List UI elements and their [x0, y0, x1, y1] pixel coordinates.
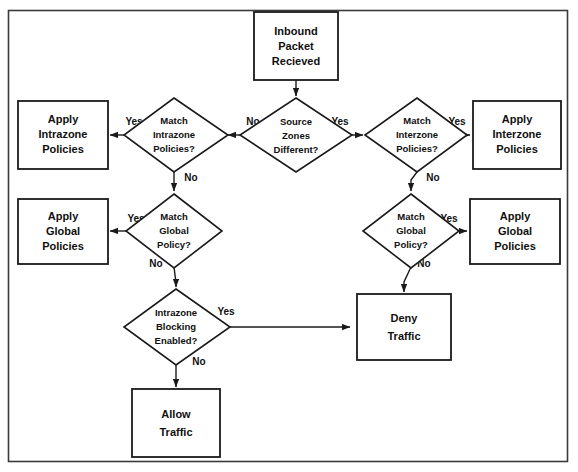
node-apply-global-policies-right[interactable]: Apply Global Policies	[470, 199, 560, 264]
node-source-zones-line3: Different?	[274, 144, 319, 155]
edge-label-intrazone-no: No	[184, 172, 197, 183]
node-apply-global-left-line2: Global	[46, 225, 80, 237]
node-global-right-line1: Match	[397, 211, 425, 222]
node-match-interzone-line3: Policies?	[396, 143, 438, 154]
edge-label-blocking-yes: Yes	[217, 306, 235, 317]
node-match-intrazone-line3: Policies?	[153, 143, 195, 154]
node-blocking-line1: Intrazone	[155, 307, 197, 318]
edge-label-blocking-no: No	[192, 356, 205, 367]
node-allow-traffic-line2: Traffic	[159, 426, 192, 438]
flowchart-svg: No Yes Yes No Yes No Yes No Yes No Yes N…	[0, 0, 578, 472]
node-match-interzone-line1: Match	[403, 115, 431, 126]
node-allow-traffic[interactable]: Allow Traffic	[132, 389, 220, 457]
edge-global-right-no	[404, 267, 411, 292]
node-match-interzone-line2: Interzone	[396, 129, 438, 140]
node-intrazone-blocking-enabled[interactable]: Intrazone Blocking Enabled?	[124, 289, 230, 365]
node-apply-intrazone-line3: Policies	[42, 143, 84, 155]
node-apply-intrazone-policies[interactable]: Apply Intrazone Policies	[18, 101, 108, 169]
node-blocking-line2: Blocking	[156, 321, 196, 332]
node-apply-intrazone-line2: Intrazone	[39, 128, 88, 140]
node-global-right-line2: Global	[396, 225, 426, 236]
node-source-zones-line2: Zones	[282, 130, 310, 141]
node-inbound-packet-line1: Inbound	[274, 25, 317, 37]
edge-label-interzone-no: No	[426, 172, 439, 183]
edge-global-left-no	[174, 267, 176, 287]
flowchart-canvas: No Yes Yes No Yes No Yes No Yes No Yes N…	[0, 0, 578, 472]
node-global-left-line3: Policy?	[157, 239, 191, 250]
node-global-right-line3: Policy?	[394, 239, 428, 250]
edge-label-global-left-no: No	[149, 258, 162, 269]
node-apply-interzone-line2: Interzone	[493, 128, 542, 140]
node-inbound-packet[interactable]: Inbound Packet Recieved	[254, 12, 338, 80]
node-source-zones-line1: Source	[280, 116, 312, 127]
edge-interzone-no	[411, 172, 417, 191]
node-apply-global-left-line3: Policies	[42, 240, 84, 252]
node-global-left-line1: Match	[160, 211, 188, 222]
node-inbound-packet-line3: Recieved	[272, 55, 320, 67]
node-match-intrazone-line1: Match	[160, 115, 188, 126]
node-global-left-line2: Global	[159, 225, 189, 236]
node-inbound-packet-line2: Packet	[278, 40, 314, 52]
node-apply-interzone-line3: Policies	[496, 143, 538, 155]
node-apply-global-right-line3: Policies	[494, 240, 536, 252]
node-apply-global-right-line1: Apply	[500, 210, 531, 222]
node-blocking-line3: Enabled?	[155, 335, 198, 346]
node-apply-intrazone-line1: Apply	[48, 113, 79, 125]
node-match-global-policy-left[interactable]: Match Global Policy?	[126, 194, 222, 268]
node-source-zones-different[interactable]: Source Zones Different?	[240, 98, 352, 172]
node-match-interzone-policies[interactable]: Match Interzone Policies?	[365, 98, 467, 172]
node-apply-interzone-line1: Apply	[502, 113, 533, 125]
node-match-global-policy-right[interactable]: Match Global Policy?	[363, 194, 459, 268]
node-deny-traffic[interactable]: Deny Traffic	[357, 294, 451, 360]
node-apply-global-right-line2: Global	[498, 225, 532, 237]
node-deny-traffic-line2: Traffic	[387, 330, 420, 342]
node-apply-interzone-policies[interactable]: Apply Interzone Policies	[473, 101, 561, 169]
node-match-intrazone-policies[interactable]: Match Intrazone Policies?	[124, 98, 228, 172]
node-deny-traffic-line1: Deny	[391, 312, 419, 324]
node-allow-traffic-line1: Allow	[161, 408, 191, 420]
node-apply-global-policies-left[interactable]: Apply Global Policies	[18, 199, 108, 264]
node-apply-global-left-line1: Apply	[48, 210, 79, 222]
node-match-intrazone-line2: Intrazone	[153, 129, 195, 140]
